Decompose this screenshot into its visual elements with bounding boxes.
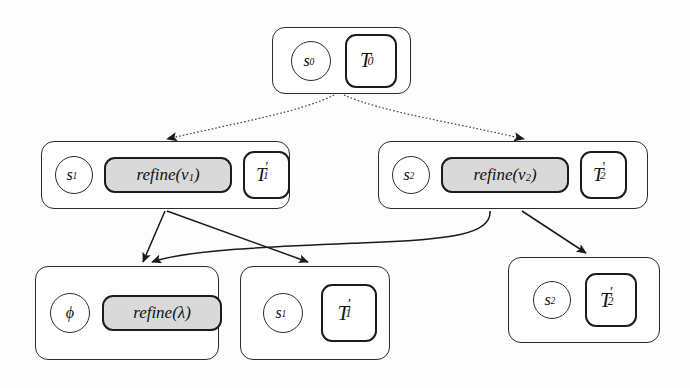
tree-box-root: T 0 xyxy=(345,34,397,88)
state-label: ϕ xyxy=(66,305,74,321)
state-circle-mid-left: s 1 xyxy=(55,156,93,194)
tree-box-bot-right: T 2 ′ xyxy=(585,273,637,327)
edge-mid-right-to-bot-left xyxy=(152,211,490,262)
refine-label: refine(v xyxy=(136,165,188,185)
state-subscript: 2 xyxy=(550,296,555,306)
refine-close-paren: ) xyxy=(531,165,537,185)
tree-box-mid-left: T 1 ′ xyxy=(243,151,290,199)
state-circle-mid-right: s 2 xyxy=(392,156,430,194)
state-subscript: 1 xyxy=(281,309,286,319)
tree-box-bot-mid: T 1 ′ xyxy=(321,284,377,342)
edge-mid-left-to-bot-left xyxy=(143,211,165,262)
node-mid-left[interactable]: s 1 refine(v1) T 1 ′ xyxy=(41,141,290,209)
node-bot-mid[interactable]: s 1 T 1 ′ xyxy=(240,266,390,360)
tree-subscript: 0 xyxy=(367,54,373,69)
node-bot-right[interactable]: s 2 T 2 ′ xyxy=(508,257,660,343)
refine-label: refine(λ xyxy=(133,303,185,323)
refine-subscript: 1 xyxy=(189,172,194,183)
state-circle-bot-mid: s 1 xyxy=(263,293,303,333)
tree-box-mid-right: T 2 ′ xyxy=(580,151,627,199)
refine-box-mid-right: refine(v2) xyxy=(441,157,569,193)
refine-label: refine(v xyxy=(473,165,525,185)
node-bot-left[interactable]: ϕ refine(λ) xyxy=(35,266,219,360)
state-subscript: 2 xyxy=(409,171,414,181)
node-bot-right-content: s 2 T 2 ′ xyxy=(509,273,659,327)
tree-prime: ′ xyxy=(266,160,269,176)
refine-close-paren: ) xyxy=(185,303,191,323)
node-root[interactable]: s 0 T 0 xyxy=(272,27,411,94)
state-circle-root: s 0 xyxy=(291,41,331,81)
tree-prime: ′ xyxy=(348,296,351,313)
node-mid-right-content: s 2 refine(v2) T 2 ′ xyxy=(379,151,647,199)
node-bot-left-content: ϕ refine(λ) xyxy=(36,293,235,333)
edge-mid-right-to-bot-right xyxy=(522,211,586,253)
state-subscript: 1 xyxy=(72,171,77,181)
diagram-canvas: s 0 T 0 s 1 refine(v1) xyxy=(0,0,690,388)
state-circle-bot-left: ϕ xyxy=(50,293,90,333)
state-circle-bot-right: s 2 xyxy=(533,281,571,319)
edge-root-to-mid-left xyxy=(167,95,334,139)
node-root-content: s 0 T 0 xyxy=(273,34,410,88)
state-subscript: 0 xyxy=(309,57,314,67)
refine-close-paren: ) xyxy=(194,165,200,185)
refine-box-mid-left: refine(v1) xyxy=(104,157,232,193)
tree-prime: ′ xyxy=(610,284,613,301)
edge-root-to-mid-right xyxy=(344,95,524,139)
node-mid-right[interactable]: s 2 refine(v2) T 2 ′ xyxy=(378,141,648,209)
refine-box-bot-left: refine(λ) xyxy=(102,295,222,331)
node-mid-left-content: s 1 refine(v1) T 1 ′ xyxy=(42,151,303,199)
node-bot-mid-content: s 1 T 1 ′ xyxy=(241,284,390,342)
tree-prime: ′ xyxy=(603,160,606,176)
refine-subscript: 2 xyxy=(526,172,531,183)
